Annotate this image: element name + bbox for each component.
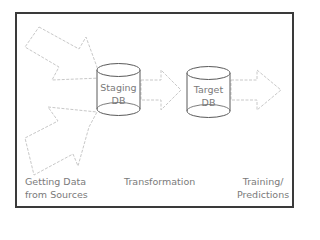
staging-db-label: Staging: [100, 82, 136, 93]
target-db-label: Target: [193, 84, 224, 95]
source-arrow-lower-icon: [25, 107, 97, 175]
stage-label-sources: Getting Data from Sources: [25, 175, 88, 201]
stage-label-sources-line2: from Sources: [25, 188, 88, 201]
target-db-label-line2: DB: [202, 97, 216, 108]
stage-label-training-line1: Training/: [237, 175, 289, 188]
source-arrow-upper-icon: [25, 27, 101, 80]
staging-db-label-line2: DB: [112, 95, 126, 106]
transform-arrow-icon: [141, 70, 181, 110]
stage-label-transformation: Transformation: [124, 175, 195, 188]
stage-label-sources-line1: Getting Data: [25, 175, 88, 188]
stage-label-training: Training/ Predictions: [237, 175, 289, 201]
stage-label-training-line2: Predictions: [237, 188, 289, 201]
staging-db-cylinder: Staging DB: [97, 64, 140, 116]
target-db-cylinder: Target DB: [187, 67, 230, 118]
stage-label-transformation-line1: Transformation: [124, 175, 195, 188]
output-arrow-icon: [231, 70, 281, 110]
